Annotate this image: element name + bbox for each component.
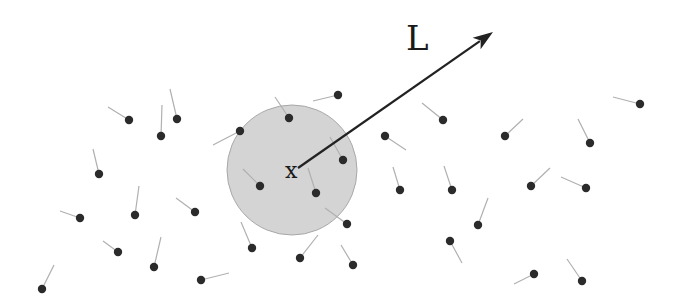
particle-tail [135, 186, 139, 215]
particle-dot [131, 211, 139, 219]
particle-diagram: x L [0, 0, 686, 308]
particle-dot [38, 285, 46, 293]
particle-dot [448, 186, 456, 194]
particle-dot [114, 248, 122, 256]
particle-dot [582, 184, 590, 192]
particle-dot [381, 132, 389, 140]
particle-dot [157, 132, 165, 140]
particle-dot [76, 214, 84, 222]
particle-tail [300, 235, 318, 258]
particle-dot [501, 132, 509, 140]
particle-dot [396, 186, 404, 194]
particle-dot [95, 170, 103, 178]
center-point-label: x [285, 158, 298, 183]
particle-dot [527, 182, 535, 190]
particle-dot [439, 116, 447, 124]
vector-label: L [406, 18, 429, 58]
particle-dot [125, 116, 133, 124]
particle-dot [474, 221, 482, 229]
particle-dot [349, 261, 357, 269]
particle-dot [150, 263, 158, 271]
particle-dot [578, 277, 586, 285]
particle-dot [312, 189, 320, 197]
particle-dot [530, 270, 538, 278]
particle-dot [191, 208, 199, 216]
particle-dot [197, 276, 205, 284]
particle-tail [201, 273, 229, 280]
particle-dot [586, 139, 594, 147]
particle-dot [236, 127, 244, 135]
particle-dot [334, 91, 342, 99]
particle-tail [478, 198, 488, 225]
particle-tail [161, 105, 162, 136]
particle-dot [256, 182, 264, 190]
particle-dot [446, 237, 454, 245]
particle-tail [170, 89, 177, 119]
particle-dot [285, 114, 293, 122]
particle-dot [339, 156, 347, 164]
particle-dot [248, 244, 256, 252]
arrowhead-icon [473, 32, 493, 49]
particle-dot [343, 220, 351, 228]
particle-dot [296, 254, 304, 262]
vector-arrow [298, 41, 480, 168]
particle-dot [636, 100, 644, 108]
particle-tail [241, 222, 252, 248]
particle-tail [154, 237, 161, 267]
particle-dot [173, 115, 181, 123]
